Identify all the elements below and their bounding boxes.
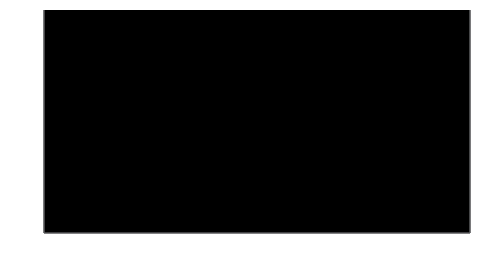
plot-background: [44, 10, 470, 233]
chart-svg: [0, 0, 490, 274]
chart-figure: [0, 0, 490, 274]
